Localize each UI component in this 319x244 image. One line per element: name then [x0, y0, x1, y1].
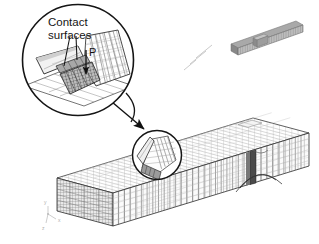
contact-surfaces-label-line2: surfaces	[48, 29, 92, 41]
figure-canvas: Contact surfaces P y	[0, 0, 319, 244]
contact-surfaces-label-line1: Contact	[48, 16, 88, 28]
load-label-p: P	[89, 46, 96, 58]
technical-figure-svg: Contact surfaces P y	[0, 0, 319, 244]
